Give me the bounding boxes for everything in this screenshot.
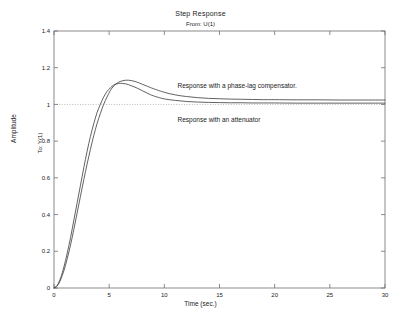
plot-canvas: 051015202530 00.20.40.60.811.21.4 Respon… (0, 0, 401, 322)
step-response-figure: Step Response From: U(1) Amplitude To: Y… (0, 0, 401, 322)
series-line-1 (54, 83, 385, 288)
data-series (54, 80, 385, 288)
y-tick-label: 0.4 (42, 212, 51, 218)
x-tick-label: 25 (326, 292, 333, 298)
annotation-label-0: Response with a phase-lag compensator. (178, 82, 297, 90)
x-tick-label: 0 (52, 292, 56, 298)
y-tick-label: 0.2 (42, 248, 51, 254)
y-axis-ticks: 00.20.40.60.811.21.4 (42, 28, 385, 291)
axes-frame (54, 31, 385, 288)
plot-frame (54, 31, 385, 288)
x-tick-label: 10 (161, 292, 168, 298)
y-tick-label: 0 (47, 285, 51, 291)
x-tick-label: 5 (107, 292, 111, 298)
annotation-label-1: Response with an attenuator (178, 116, 262, 124)
y-tick-label: 0.8 (42, 138, 51, 144)
x-tick-label: 15 (216, 292, 223, 298)
y-tick-label: 1 (47, 102, 51, 108)
x-tick-label: 30 (382, 292, 389, 298)
y-tick-label: 1.4 (42, 28, 51, 34)
series-line-0 (54, 80, 385, 288)
y-tick-label: 0.6 (42, 175, 51, 181)
y-tick-label: 1.2 (42, 65, 51, 71)
x-tick-label: 20 (271, 292, 278, 298)
x-axis-ticks: 051015202530 (52, 31, 389, 298)
